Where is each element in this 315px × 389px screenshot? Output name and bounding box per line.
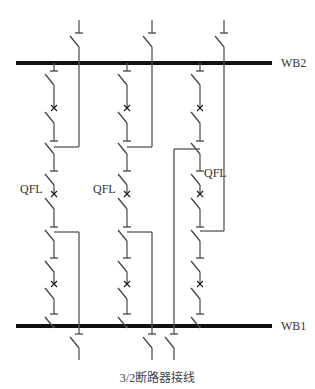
busbar-label: WB2 [281,56,306,70]
breaker-string-1: QFL [20,63,58,328]
diagram-caption: 3/2断路器接线 [0,368,315,386]
qfl-label: QFL [204,166,227,180]
qfl-label: QFL [20,182,43,196]
feeder-2-top [127,20,156,147]
busbar-label: WB1 [281,319,306,333]
feeder-1-bottom [54,232,83,360]
qfl-label: QFL [93,182,116,196]
feeder-2-bottom [127,232,156,360]
one-and-half-breaker-diagram: WB2WB1QFLQFLQFL [0,0,315,389]
breaker-string-2: QFL [93,63,131,328]
breaker-string-3: QFL [191,63,227,328]
feeder-3-bottom [165,149,200,360]
feeder-3-top [200,20,228,231]
busbar-wb1: WB1 [16,319,306,333]
busbar-wb2: WB2 [16,56,306,70]
feeder-1-top [54,20,83,147]
